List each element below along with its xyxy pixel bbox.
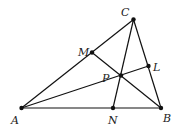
label-P: P bbox=[101, 72, 110, 85]
segment-CA bbox=[22, 20, 134, 109]
label-M: M bbox=[77, 46, 90, 59]
point-P bbox=[119, 73, 123, 77]
segment-AL bbox=[22, 66, 149, 108]
label-B: B bbox=[162, 112, 171, 125]
point-M bbox=[90, 50, 94, 54]
point-C bbox=[131, 17, 135, 21]
triangle-diagram: ABCMLNP bbox=[0, 0, 180, 129]
point-L bbox=[146, 64, 150, 68]
point-A bbox=[19, 106, 23, 110]
label-N: N bbox=[107, 114, 118, 127]
point-B bbox=[159, 106, 163, 110]
label-L: L bbox=[152, 61, 160, 74]
label-A: A bbox=[10, 114, 19, 127]
label-C: C bbox=[121, 6, 130, 19]
point-N bbox=[111, 106, 115, 110]
